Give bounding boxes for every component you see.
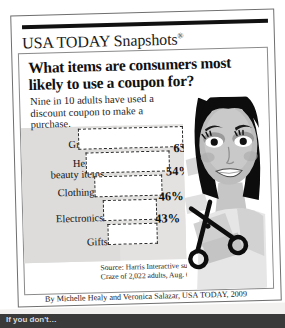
woman-with-scissors-illustration (182, 96, 273, 290)
bar-gifts (107, 223, 158, 245)
bar-value-label: 46% (159, 190, 184, 204)
illustration-svg (182, 96, 273, 290)
scanned-page-background: USA TODAY Snapshots® What items are cons… (0, 0, 285, 328)
next-graphic-text: If you don't… (6, 315, 57, 324)
infographic-panel: What items are consumers most likely to … (18, 47, 274, 295)
bar-groceries (78, 126, 184, 150)
bar-clothing (94, 175, 163, 198)
logo-word: Snapshots (113, 31, 177, 50)
logo-prefix: USA TODAY (22, 32, 114, 51)
bar-category-label: Clothing (32, 186, 94, 199)
bar-health-beauty (85, 150, 170, 173)
bar-electronics (103, 199, 158, 221)
bar-category-label: Gifts (42, 236, 108, 249)
next-graphic-strip: If you don't… (0, 314, 285, 328)
bar-category-label: Electronics (31, 212, 103, 225)
bar-value-label: 43% (155, 212, 180, 226)
registered-trademark-icon: ® (177, 31, 183, 40)
